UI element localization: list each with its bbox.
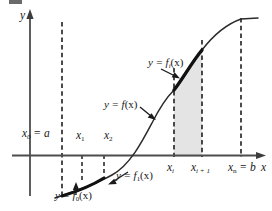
y-axis-label: y — [20, 10, 25, 22]
annotation-f: y = f(x) — [104, 99, 138, 111]
tick-label-xn: xn = b — [228, 162, 256, 175]
tick-label-x1: x1 — [76, 130, 85, 143]
annotation-f0-arg: (x) — [79, 189, 92, 201]
tick-label-x2: x2 — [104, 130, 113, 143]
tick-label-xi-subscript: i — [172, 167, 174, 175]
y-axis-arrowhead — [26, 9, 33, 19]
x-axis-label: x — [261, 162, 266, 174]
tick-label-x2-subscript: 2 — [109, 135, 113, 143]
annotation-f-arg: (x) — [125, 98, 138, 110]
x-axis-arrowhead — [256, 152, 266, 159]
annotation-f1-arg: (x) — [140, 169, 153, 181]
tick-label-xi: xi — [167, 162, 174, 175]
leader-line-fi — [161, 69, 175, 76]
tick-label-x0-value: a — [44, 127, 50, 139]
annotation-f0-equals: = — [60, 189, 73, 201]
annotation-f1-equals: = — [121, 169, 134, 181]
tick-label-xi-plus-1: xi + 1 — [191, 162, 210, 175]
annotation-fi: y = fi(x) — [148, 57, 183, 69]
annotation-f0: y = f0(x) — [55, 190, 92, 202]
leader-arrowhead-fi — [172, 72, 180, 78]
tick-label-x0: x0 = a — [22, 128, 50, 141]
tick-label-xn-equals: = — [237, 161, 250, 173]
leader-line-f — [140, 107, 151, 116]
annotation-fi-arg: (x) — [171, 56, 184, 68]
annotation-f-equals: = — [109, 98, 122, 110]
tick-label-x1-subscript: 1 — [81, 135, 85, 143]
tick-label-x0-equals: = — [31, 127, 44, 139]
annotation-fi-equals: = — [153, 56, 166, 68]
cropped-figure-mark — [9, 0, 22, 4]
annotation-f1: y = f1(x) — [116, 170, 153, 182]
tick-label-xi-plus-1-subscript: i + 1 — [196, 167, 210, 175]
tick-label-xn-value: b — [250, 161, 256, 173]
